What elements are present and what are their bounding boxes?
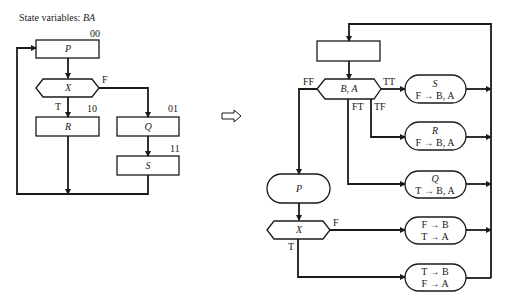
assign-false-line2: T → A (421, 232, 449, 242)
action-q-assign: T → B, A (415, 186, 454, 196)
assign-true-line2: F → A (421, 279, 448, 289)
state-code-s: 11 (170, 144, 180, 154)
label-r: R (65, 122, 71, 132)
decision-x-label: X (296, 225, 302, 235)
diagram-canvas (0, 0, 505, 305)
action-s-assign: F → B, A (416, 91, 455, 101)
label-s: S (146, 161, 151, 171)
edge-label-x-true: T (55, 102, 61, 112)
branch-tf: TF (374, 102, 386, 112)
state-code-p: 00 (90, 29, 100, 39)
branch-tt: TT (383, 77, 395, 87)
edge-label-x-false: F (102, 75, 108, 85)
assign-false-line1: F → B (421, 220, 448, 230)
branch-ft: FT (352, 102, 364, 112)
label-q: Q (144, 122, 151, 132)
state-vars-text: BA (83, 12, 95, 23)
hollow-right-arrow-icon (222, 110, 241, 122)
assign-true-line1: T → B (421, 267, 449, 277)
state-variables-label: State variables: BA (19, 13, 95, 23)
state-code-r: 10 (87, 104, 97, 114)
action-r-title: R (432, 126, 438, 136)
action-s-title: S (433, 79, 438, 89)
decision-x-true: T (288, 242, 294, 252)
branch-ff: FF (303, 77, 314, 87)
label-p: P (65, 44, 71, 54)
action-q-title: Q (431, 174, 438, 184)
action-r-assign: F → B, A (416, 138, 455, 148)
label-x: X (65, 83, 71, 93)
label-decision-ba: B, A (340, 84, 357, 94)
state-code-q: 01 (168, 104, 178, 114)
decision-x-false: F (333, 218, 339, 228)
right-entry-box (317, 41, 380, 61)
state-label-text: State variables: (19, 12, 80, 23)
action-p-title: P (296, 184, 302, 194)
